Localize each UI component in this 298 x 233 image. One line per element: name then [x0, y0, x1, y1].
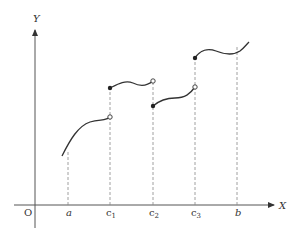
filled-point-c2: [151, 104, 155, 108]
piecewise-function-diagram: Y X O a c1 c2 c3 b: [0, 0, 298, 233]
curve-piece-3: [153, 87, 195, 106]
y-axis-label: Y: [33, 13, 41, 24]
tick-label-b: b: [235, 207, 241, 218]
open-point-c2: [151, 79, 155, 83]
open-point-c3: [193, 85, 197, 89]
x-axis-label: X: [278, 200, 287, 211]
curve-piece-2: [110, 81, 153, 88]
dashed-guides: [68, 46, 237, 205]
open-point-c1: [108, 115, 112, 119]
filled-point-c1: [108, 86, 112, 90]
tick-label-a: a: [66, 207, 72, 218]
curve-piece-4: [195, 42, 249, 58]
curve-piece-1: [62, 117, 110, 156]
tick-label-c1: c1: [106, 207, 116, 220]
filled-point-c3: [193, 56, 197, 60]
tick-label-c2: c2: [149, 207, 159, 220]
origin-label: O: [24, 207, 32, 218]
tick-label-c3: c3: [191, 207, 201, 220]
